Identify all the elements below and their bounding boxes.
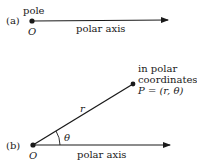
point-p (131, 82, 136, 87)
point-caption-line2: coordinates, (138, 75, 197, 85)
pole-label: pole (23, 6, 45, 16)
polar-axis-label-b: polar axis (77, 150, 126, 160)
angle-label: θ (64, 133, 70, 143)
radius-label: r (80, 104, 85, 114)
polar-axis-a (32, 20, 168, 21)
angle-arc (56, 131, 60, 145)
point-caption-line1: in polar (138, 64, 177, 74)
polar-axis-label-a: polar axis (76, 24, 125, 34)
origin-label-b: O (29, 151, 37, 161)
origin-point-b (30, 142, 35, 147)
pole-point-a (29, 18, 34, 23)
point-p-label: P = (r, θ) (138, 86, 183, 96)
radius-line (33, 84, 133, 145)
panel-b-tag: (b) (6, 141, 20, 151)
origin-label-a: O (28, 27, 36, 37)
panel-a-tag: (a) (6, 16, 20, 26)
